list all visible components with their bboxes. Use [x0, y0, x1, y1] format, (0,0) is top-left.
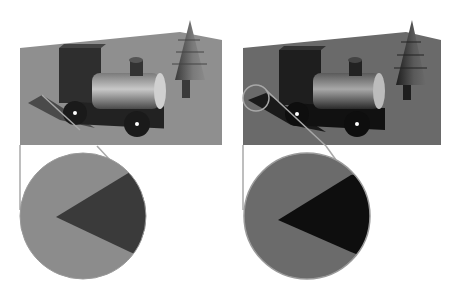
render-scene-right	[231, 0, 462, 292]
render-scene-left	[0, 0, 231, 292]
magnified-inset-right	[231, 150, 462, 292]
magnified-inset-left	[0, 150, 231, 292]
render-panel-left	[0, 0, 231, 292]
render-panel-right	[231, 0, 462, 292]
